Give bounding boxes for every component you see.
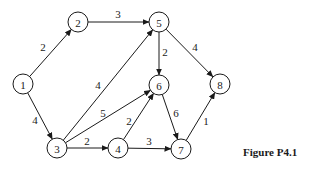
edge-weight-3-6: 5 bbox=[100, 107, 106, 119]
edge-weights-layer: 243452232461 bbox=[32, 8, 209, 147]
edges-layer bbox=[28, 22, 215, 149]
edge-weight-4-7: 3 bbox=[146, 135, 152, 147]
edge-7-to-8 bbox=[186, 93, 215, 141]
node-label: 3 bbox=[54, 143, 60, 155]
edge-weight-5-8: 4 bbox=[192, 41, 198, 53]
arrow-icon bbox=[66, 90, 151, 142]
node-7: 7 bbox=[171, 139, 191, 159]
node-label: 6 bbox=[156, 80, 162, 92]
node-label: 7 bbox=[178, 144, 184, 156]
node-label: 2 bbox=[75, 17, 81, 29]
edge-weight-4-6: 2 bbox=[126, 115, 132, 127]
arrow-icon bbox=[63, 30, 152, 140]
node-label: 5 bbox=[156, 17, 162, 29]
edge-5-to-8 bbox=[166, 29, 213, 77]
edge-weight-1-3: 4 bbox=[32, 114, 38, 126]
figure-caption: Figure P4.1 bbox=[243, 146, 297, 158]
node-3: 3 bbox=[47, 138, 67, 158]
nodes-layer: 12345678 bbox=[13, 12, 230, 159]
edge-4-to-7 bbox=[128, 148, 171, 149]
arrow-icon bbox=[128, 148, 171, 149]
edge-3-to-5 bbox=[63, 30, 152, 140]
edge-weight-2-5: 3 bbox=[115, 8, 121, 20]
node-label: 4 bbox=[115, 143, 121, 155]
node-4: 4 bbox=[108, 138, 128, 158]
node-6: 6 bbox=[149, 75, 169, 95]
edge-weight-3-4: 2 bbox=[84, 135, 90, 147]
node-label: 1 bbox=[20, 79, 26, 91]
edge-3-to-6 bbox=[66, 90, 151, 142]
edge-weight-3-5: 4 bbox=[95, 79, 101, 91]
arrow-icon bbox=[166, 29, 213, 77]
node-8: 8 bbox=[210, 74, 230, 94]
node-5: 5 bbox=[149, 12, 169, 32]
edge-1-to-2 bbox=[30, 29, 72, 76]
node-1: 1 bbox=[13, 74, 33, 94]
edge-weight-5-6: 2 bbox=[162, 46, 168, 58]
edge-weight-7-8: 1 bbox=[203, 115, 209, 127]
arrow-icon bbox=[30, 29, 72, 76]
edge-weight-1-2: 2 bbox=[40, 41, 46, 53]
edge-weight-6-7: 6 bbox=[173, 107, 179, 119]
node-label: 8 bbox=[217, 79, 223, 91]
node-2: 2 bbox=[68, 12, 88, 32]
arrow-icon bbox=[186, 93, 215, 141]
